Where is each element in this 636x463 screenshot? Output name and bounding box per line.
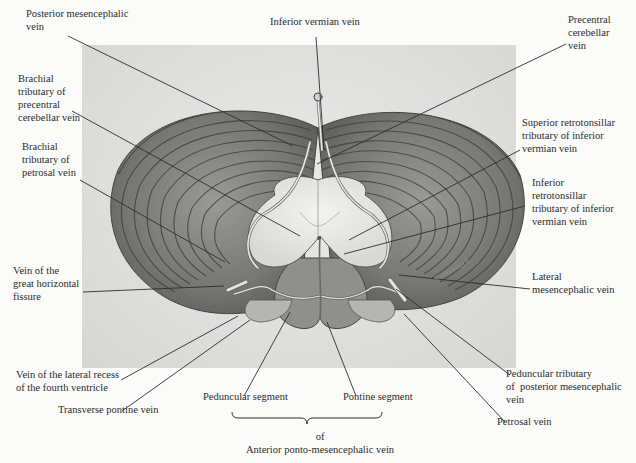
label-brachial-tributary-petrosal: Brachial tributary of petrosal vein	[22, 140, 76, 179]
group-brace	[232, 412, 382, 424]
leader-line-pontine-segment	[327, 322, 356, 396]
label-inferior-vermian-vein: Inferior vermian vein	[270, 15, 360, 28]
label-peduncular-tributary: Peduncular tributary of posterior mesenc…	[506, 367, 622, 406]
label-superior-retrotonsillar: Superior retrotonsillar tributary of inf…	[522, 116, 615, 155]
leader-line-peduncular-tributary	[396, 289, 510, 375]
label-petrosal-vein: Petrosal vein	[497, 415, 552, 428]
group-connector-text: of	[300, 430, 340, 443]
label-vein-great-horizontal-fissure: Vein of the great horizontal fissure	[13, 264, 79, 303]
label-vein-lateral-recess: Vein of the lateral recess of the fourth…	[16, 368, 119, 394]
label-posterior-mesencephalic-vein: Posterior mesencephalic vein	[26, 7, 128, 33]
label-transverse-pontine-vein: Transverse pontine vein	[58, 403, 159, 416]
label-precentral-cerebellar-vein: Precentral cerebellar vein	[568, 13, 611, 52]
group-caption-anterior-ponto-mesencephalic-vein: Anterior ponto-mesencephalic vein	[200, 443, 440, 456]
label-peduncular-segment: Peduncular segment	[203, 390, 288, 403]
label-brachial-tributary-precentral: Brachial tributary of precentral cerebel…	[18, 72, 80, 124]
label-pontine-segment: Pontine segment	[343, 390, 413, 403]
leader-line-petrosal-vein	[404, 314, 505, 422]
label-inferior-retrotonsillar: Inferior retrotonsillar tributary of inf…	[532, 176, 614, 228]
label-lateral-mesencephalic-vein: Lateral mesencephalic vein	[532, 270, 615, 296]
leader-line-peduncular-segment	[244, 312, 290, 396]
